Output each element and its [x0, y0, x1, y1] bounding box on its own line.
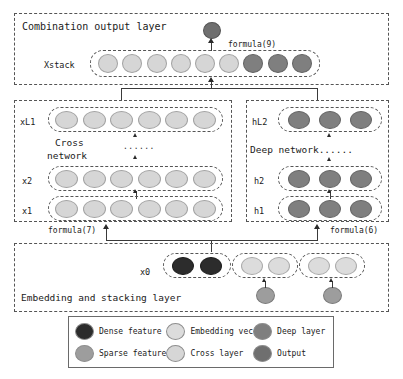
cross-layer-node	[55, 200, 78, 218]
cross-layer-node	[55, 111, 78, 129]
cross-network-title-line1: Cross	[55, 137, 84, 148]
deep-layer-node	[268, 54, 288, 73]
cross-row-x2	[48, 166, 223, 191]
legend-swatch-cross	[166, 345, 185, 362]
merge-to-xstack-arrow	[208, 77, 214, 82]
legend-label-output: Output	[277, 349, 306, 358]
cross-layer-node	[122, 54, 142, 73]
dense-feature-node	[172, 257, 194, 275]
formula-9-label: formula(9)	[228, 39, 276, 50]
legend-swatch-sparse	[75, 345, 94, 362]
deep-layer-node	[350, 170, 372, 188]
cross-layer-node	[193, 200, 216, 218]
legend-grid: Dense featureEmbedding vecDeep layerSpar…	[69, 317, 333, 367]
cross-layer-node	[110, 170, 133, 188]
legend-label-embed: Embedding vec	[190, 327, 253, 336]
cross-ellipsis-upper-arrow	[133, 133, 137, 137]
sparse-2-to-embedding-arrow	[329, 278, 333, 282]
legend-item-deep: Deep layer	[253, 323, 327, 340]
deep-layer-node	[288, 200, 310, 218]
x0-dense-group	[163, 253, 231, 278]
legend-label-dense: Dense feature	[99, 327, 162, 336]
legend-item-output: Output	[253, 345, 327, 362]
deep-row-label-h1: h1	[254, 206, 264, 217]
xstack-to-output-arrow	[208, 38, 214, 43]
legend-label-sparse: Sparse feature	[99, 349, 166, 358]
embedding-vec-node	[268, 257, 290, 275]
cross-layer-node	[83, 170, 106, 188]
legend-item-dense: Dense feature	[75, 323, 166, 340]
legend-swatch-deep	[253, 323, 272, 340]
deep-layer-node	[288, 111, 310, 129]
deep-row-h2	[278, 166, 382, 191]
legend-swatch-output	[253, 345, 272, 362]
dense-feature-node	[200, 257, 222, 275]
deep-layer-node	[350, 111, 372, 129]
cross-row-xL1	[48, 107, 223, 132]
combination-output-layer-title: Combination output layer	[22, 21, 167, 32]
sparse-feature-node-1	[256, 287, 275, 304]
deep-row-h1	[278, 196, 382, 221]
cross-layer-node	[138, 170, 161, 188]
deep-row-label-h2: h2	[254, 176, 264, 187]
cross-layer-node	[98, 54, 118, 73]
deep-layer-node	[350, 200, 372, 218]
deep-layer-node	[288, 170, 310, 188]
sparse-feature-node-2	[323, 287, 342, 304]
cross-layer-node	[165, 200, 188, 218]
cross-layer-node	[165, 111, 188, 129]
legend-label-cross: Cross layer	[190, 349, 243, 358]
merge-to-xstack-bar	[121, 88, 318, 89]
diagram-canvas: Combination output layer formula(9) Xsta…	[0, 0, 403, 379]
deep-row-label-hL2: hL2	[252, 117, 267, 128]
embedding-stacking-layer-title: Embedding and stacking layer	[21, 292, 181, 303]
sparse-2-to-embedding-line	[332, 281, 333, 288]
x0-embedding-group-1	[232, 253, 298, 278]
cross-layer-node	[171, 54, 191, 73]
x0-to-deep-arrow	[314, 224, 320, 229]
legend-item-cross: Cross layer	[166, 345, 253, 362]
cross-layer-node	[147, 54, 167, 73]
legend-label-deep: Deep layer	[277, 327, 325, 336]
cross-x1-to-x2-arrow	[133, 189, 137, 193]
cross-layer-node	[193, 170, 216, 188]
deep-layer-node	[319, 111, 341, 129]
cross-row-label-x1: x1	[22, 206, 32, 217]
cross-layer-node	[83, 200, 106, 218]
x0-label: x0	[140, 267, 150, 278]
cross-layer-node	[219, 54, 239, 73]
embedding-vec-node	[335, 257, 357, 275]
formula-6-label: formula(6)	[330, 225, 378, 236]
deep-ellipsis-lower-arrow	[327, 157, 331, 161]
sparse-1-to-embedding-line	[265, 281, 266, 288]
cross-layer-node	[138, 200, 161, 218]
cross-row-label-x2: x2	[22, 176, 32, 187]
cross-network-title-line2: network	[47, 150, 87, 161]
x0-embedding-group-2	[299, 253, 365, 278]
cross-layer-node	[193, 111, 216, 129]
sparse-1-to-embedding-arrow	[262, 278, 266, 282]
legend-item-embed: Embedding vec	[166, 323, 253, 340]
legend-swatch-dense	[75, 323, 94, 340]
cross-layer-node	[110, 200, 133, 218]
xstack-row	[90, 50, 320, 77]
deep-ellipsis-upper-arrow	[327, 133, 331, 137]
deep-h1-to-h2-arrow	[327, 189, 331, 193]
legend-item-sparse: Sparse feature	[75, 345, 166, 362]
cross-layer-node	[55, 170, 78, 188]
deep-layer-node	[319, 170, 341, 188]
legend-box: Dense featureEmbedding vecDeep layerSpar…	[68, 316, 334, 368]
cross-layer-node	[110, 111, 133, 129]
deep-row-hL2	[278, 107, 382, 132]
cross-row-label-xL1: xL1	[20, 117, 35, 128]
deep-network-title: Deep network......	[250, 144, 353, 155]
cross-output-riser	[121, 88, 122, 100]
embedding-vec-node	[241, 257, 263, 275]
cross-layer-node	[195, 54, 215, 73]
x0-to-cross-arrow	[103, 224, 109, 229]
cross-row-x1	[48, 196, 223, 221]
cross-layer-node	[165, 170, 188, 188]
legend-swatch-embed	[166, 323, 185, 340]
xstack-label: Xstack	[44, 60, 75, 71]
deep-layer-node	[243, 54, 263, 73]
